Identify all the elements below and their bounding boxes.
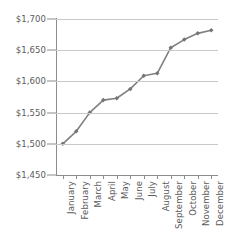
x-axis-tick-mark <box>198 175 199 179</box>
y-axis-tick-label: $1,600 <box>16 76 46 86</box>
x-axis-tick-mark <box>144 175 145 179</box>
y-axis-tick-label: $1,450 <box>16 170 46 180</box>
x-axis-tick-label: February <box>80 181 90 219</box>
x-axis-tick-mark <box>157 175 158 179</box>
series-line <box>56 19 218 175</box>
gridline <box>56 81 218 82</box>
y-axis-tick-mark <box>47 112 56 113</box>
x-axis-tick-mark <box>130 175 131 179</box>
y-axis-tick-mark <box>47 81 56 82</box>
x-axis-tick-label: October <box>188 181 198 216</box>
y-axis-tick-mark <box>47 175 56 176</box>
x-axis-tick-label: January <box>66 181 76 214</box>
y-axis-tick-label: $1,550 <box>16 108 46 118</box>
x-axis-labels: JanuaryFebruaryMarchAprilMayJuneJulyAugu… <box>56 181 218 243</box>
x-axis-tick-label: April <box>107 181 117 201</box>
y-axis-tick-label: $1,500 <box>16 139 46 149</box>
gridline <box>56 113 218 114</box>
x-axis-tick-label: December <box>215 181 225 226</box>
data-point-marker <box>209 28 214 33</box>
y-axis-tick-mark <box>47 19 56 20</box>
x-axis-tick-mark <box>117 175 118 179</box>
x-axis-tick-mark <box>184 175 185 179</box>
y-axis-labels: $1,450$1,500$1,550$1,600$1,650$1,700 <box>0 0 56 243</box>
x-axis-tick-mark <box>76 175 77 179</box>
x-axis-tick-mark <box>171 175 172 179</box>
x-axis-tick-label: May <box>120 181 130 199</box>
x-axis-ticks <box>56 175 218 180</box>
y-axis-tick-label: $1,650 <box>16 45 46 55</box>
gridline <box>56 19 218 20</box>
x-axis-tick-mark <box>63 175 64 179</box>
x-axis-tick-mark <box>211 175 212 179</box>
y-axis-tick-mark <box>47 143 56 144</box>
x-axis-tick-label: September <box>174 181 184 229</box>
y-axis-tick-mark <box>47 50 56 51</box>
x-axis-tick-mark <box>90 175 91 179</box>
line-chart: $1,450$1,500$1,550$1,600$1,650$1,700 Jan… <box>0 0 227 243</box>
series-polyline <box>63 30 212 144</box>
x-axis-tick-label: July <box>147 181 157 197</box>
y-axis-tick-label: $1,700 <box>16 14 46 24</box>
x-axis-tick-label: August <box>161 181 171 211</box>
gridline <box>56 144 218 145</box>
x-axis-tick-label: June <box>134 181 144 200</box>
x-axis-tick-mark <box>103 175 104 179</box>
gridline <box>56 50 218 51</box>
x-axis-tick-label: March <box>93 181 103 207</box>
plot-area <box>56 19 218 175</box>
x-axis-tick-label: November <box>201 181 211 226</box>
